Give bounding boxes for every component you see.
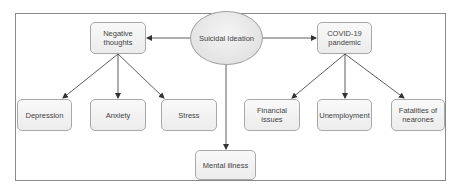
node-label: Unemployment	[319, 111, 369, 120]
node-label: Negative thoughts	[93, 29, 143, 47]
node-label: Fatalities of nearones	[394, 106, 442, 124]
node-label: COVID-19 pandemic	[320, 29, 369, 47]
node-label: Mental illness	[203, 161, 248, 170]
node-unemployment: Unemployment	[317, 99, 372, 131]
node-stress: Stress	[161, 99, 217, 131]
node-anxiety: Anxiety	[90, 99, 146, 131]
node-fatalities-of-nearones: Fatalities of nearones	[391, 99, 445, 131]
node-financial-issues: Financial issues	[244, 99, 300, 131]
node-label: Suicidal Ideation	[199, 34, 254, 43]
node-suicidal-ideation: Suicidal Ideation	[190, 11, 263, 65]
diagram-canvas: Suicidal Ideation Negative thoughts COVI…	[0, 0, 464, 190]
node-label: Depression	[26, 111, 64, 120]
edge-covid-to-financial	[292, 54, 345, 98]
node-label: Stress	[178, 111, 199, 120]
edge-negative-to-stress	[118, 54, 164, 98]
node-mental-illness: Mental illness	[195, 150, 256, 180]
node-label: Financial issues	[247, 106, 297, 124]
node-depression: Depression	[17, 99, 72, 131]
node-negative-thoughts: Negative thoughts	[90, 22, 146, 54]
edge-covid-to-fatalities	[345, 54, 404, 98]
node-label: Anxiety	[106, 111, 131, 120]
edge-negative-to-depression	[63, 54, 118, 98]
node-covid-pandemic: COVID-19 pandemic	[317, 22, 372, 54]
